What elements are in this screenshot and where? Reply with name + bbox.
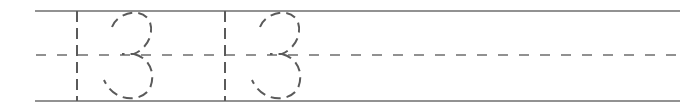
tracing-worksheet [0,0,680,111]
tracing-canvas [0,0,680,111]
traced-number-13-first [77,11,152,101]
traced-number-13-second [225,11,300,101]
